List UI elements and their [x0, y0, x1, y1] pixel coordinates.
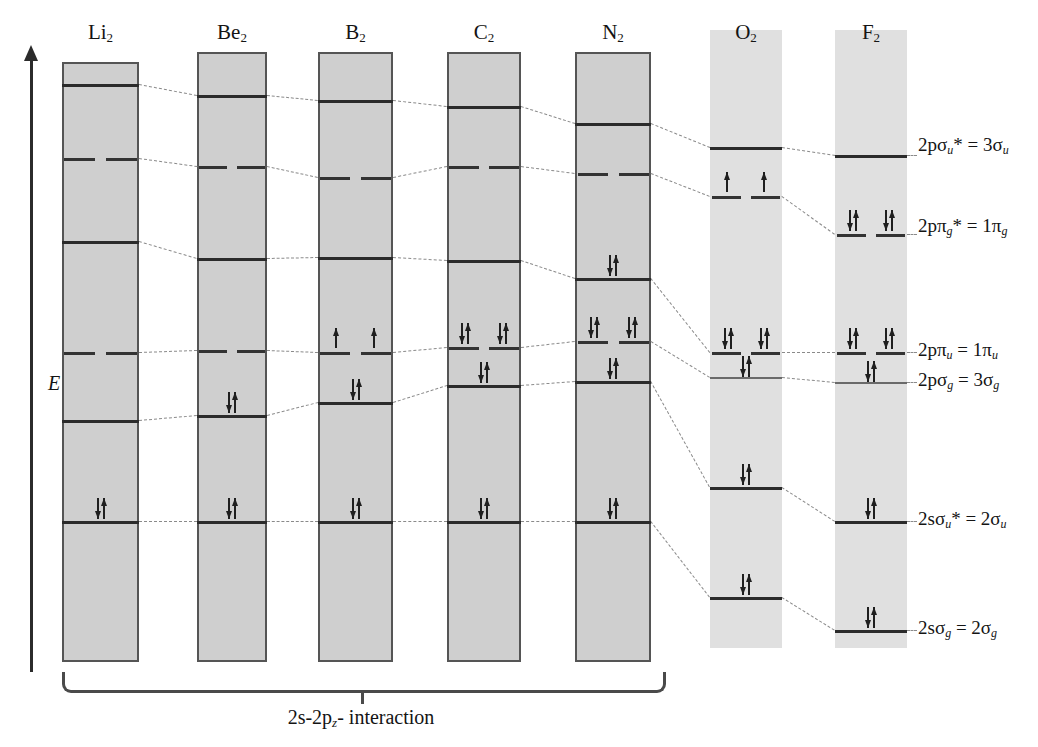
level-line-f2-1pg	[876, 234, 905, 237]
connector-o2-f2-1pu	[782, 352, 835, 353]
level-line-o2-3su	[710, 147, 782, 150]
electron-pair	[607, 498, 619, 519]
electron-arrow-up-icon	[484, 362, 490, 383]
level-line-o2-2su	[710, 487, 782, 490]
electron-pair	[626, 317, 638, 338]
level-line-be2-1pg	[237, 166, 265, 169]
level-line-c2-2sg	[447, 521, 521, 524]
bracket-shape	[62, 672, 666, 693]
mo-label-4: 2sσu* = 2σu	[918, 509, 1007, 530]
column-header-c2: C2	[474, 22, 495, 44]
electron-arrow-up-icon	[764, 328, 770, 349]
connector-li2-be2-2sg	[139, 521, 197, 522]
electrons-li2-2sg	[62, 497, 139, 519]
electrons-f2-2su	[835, 497, 907, 519]
electron-arrow-up-icon	[503, 323, 509, 344]
level-line-n2-2sg	[575, 521, 651, 524]
level-line-b2-3sg	[320, 352, 350, 355]
level-line-b2-1pg	[361, 177, 391, 180]
connector-o2-f2-1pg	[781, 196, 835, 235]
level-line-be2-1pg	[199, 166, 227, 169]
electron-pair	[740, 356, 752, 377]
electrons-be2-2sg	[197, 497, 267, 519]
single-electron-icon	[761, 172, 768, 192]
column-header-li2: Li2	[88, 22, 113, 44]
connector-c2-n2-3su	[521, 106, 575, 124]
level-line-n2-3sg	[578, 341, 608, 344]
level-line-f2-3sg	[835, 382, 907, 384]
electron-pair	[847, 328, 859, 349]
level-line-b2-1pu	[318, 257, 393, 260]
energy-axis-line	[30, 60, 33, 672]
connector-n2-o2-2su	[650, 381, 710, 487]
level-line-f2-2sg	[835, 630, 907, 633]
connector-o2-f2-3sg	[782, 377, 835, 383]
electrons-f2-2sg	[835, 606, 907, 628]
connector-b2-c2-2sg	[393, 521, 447, 522]
electron-pair	[459, 323, 471, 344]
electron-pair	[226, 392, 238, 413]
level-line-c2-2su	[447, 385, 521, 388]
electrons-o2-3sg	[710, 355, 782, 377]
level-line-be2-2su	[197, 415, 267, 418]
connector-c2-n2-1pg	[521, 166, 575, 174]
connector-li2-be2-1pu	[139, 241, 197, 259]
connector-b2-c2-1pu	[393, 257, 447, 261]
electron-arrow-up-icon	[484, 498, 490, 519]
connector-n2-o2-2sg	[650, 521, 710, 598]
column-header-f2: F2	[862, 22, 880, 44]
column-box-c2	[447, 52, 521, 662]
electron-arrow-up-icon	[746, 464, 752, 485]
electron-arrow-up-icon	[632, 317, 638, 338]
electrons-n2-3sg	[575, 316, 651, 338]
level-line-li2-3sg	[64, 352, 95, 355]
electrons-f2-3sg	[835, 360, 907, 382]
connector-c2-n2-2sg	[521, 521, 575, 522]
electron-arrow-up-icon	[746, 356, 752, 377]
level-line-li2-1pg	[106, 158, 137, 161]
electron-arrow-up-icon	[594, 317, 600, 338]
electron-arrow-up-icon	[853, 210, 859, 231]
connector-c2-n2-3sg	[521, 341, 575, 348]
level-line-c2-1pg	[449, 166, 479, 169]
bracket-caption: 2s-2pz- interaction	[288, 706, 435, 731]
electron-arrow-up-icon	[889, 328, 895, 349]
connector-o2-f2-3su	[782, 147, 835, 156]
mo-label-5: 2sσg = 2σg	[918, 618, 997, 639]
level-line-be2-3sg	[237, 350, 265, 353]
electrons-b2-3sg	[318, 326, 393, 348]
connector-be2-b2-1pg	[267, 166, 318, 178]
connector-li2-be2-3su	[139, 84, 197, 96]
connector-f2-label-3sg	[907, 382, 917, 383]
connector-be2-b2-2su	[267, 402, 318, 416]
connector-o2-f2-2su	[781, 487, 835, 522]
level-line-o2-1pg	[712, 196, 741, 199]
connector-c2-n2-2su	[521, 381, 575, 386]
electron-pair	[883, 328, 895, 349]
connector-li2-be2-2su	[139, 415, 197, 421]
single-electron-icon	[724, 172, 731, 192]
column-header-n2: N2	[602, 22, 624, 44]
electrons-b2-2su	[318, 378, 393, 400]
electron-arrow-up-icon	[613, 255, 619, 276]
electrons-o2-2sg	[710, 573, 782, 595]
connector-o2-f2-2sg	[781, 597, 835, 631]
connector-b2-c2-3su	[393, 100, 447, 107]
electron-pair	[350, 379, 362, 400]
electron-pair	[740, 464, 752, 485]
column-header-o2: O2	[735, 22, 757, 44]
electron-pair	[95, 498, 107, 519]
electron-arrow-up-icon	[232, 498, 238, 519]
level-line-c2-3su	[447, 106, 521, 109]
level-line-c2-3sg	[489, 347, 519, 350]
level-line-be2-3sg	[199, 350, 227, 353]
electron-pair	[883, 210, 895, 231]
electron-arrow-up-icon	[853, 328, 859, 349]
electron-pair	[607, 255, 619, 276]
level-line-o2-3sg	[710, 377, 782, 379]
mo-label-1: 2pπg* = 1πg	[918, 216, 1007, 237]
connector-n2-o2-1pg	[651, 173, 710, 197]
connector-be2-b2-3sg	[267, 350, 318, 353]
level-line-b2-3su	[318, 100, 393, 103]
mo-diagram: E Li2Be2B2C2N2O2F2 2pσu* = 3σu2pπg* = 1π…	[0, 0, 1038, 747]
